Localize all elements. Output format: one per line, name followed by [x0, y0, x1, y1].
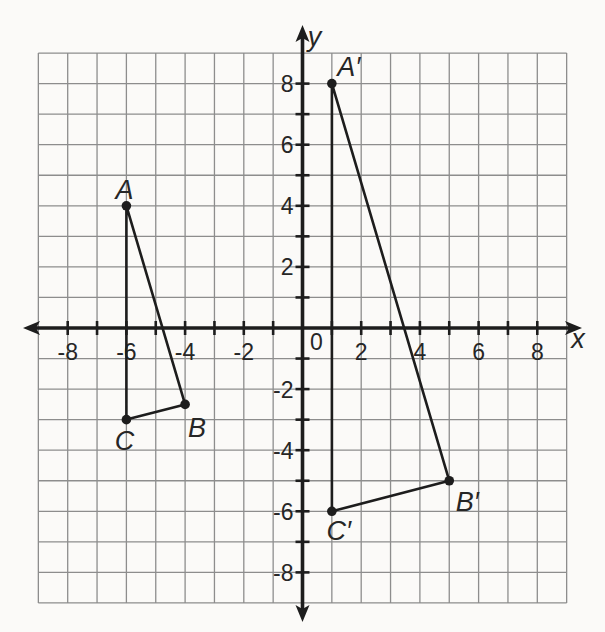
y-tick-label: -6	[273, 499, 293, 525]
y-tick-label: 6	[281, 132, 294, 158]
y-tick-label: 2	[281, 254, 294, 280]
x-tick-label: 2	[355, 339, 368, 365]
point-label-b-prime: B′	[456, 487, 480, 517]
point-label-a-prime: A′	[335, 52, 361, 82]
y-tick-label: 8	[281, 71, 294, 97]
triangle-a-primeb-primec-prime: A′B′C′	[327, 52, 480, 547]
point-b	[180, 400, 190, 410]
triangle-abc: ABC	[113, 175, 206, 456]
y-axis-title: y	[306, 22, 323, 52]
point-c	[122, 415, 132, 425]
x-tick-label: 6	[472, 339, 485, 365]
x-tick-label: -4	[175, 339, 196, 365]
y-tick-label: 4	[281, 193, 294, 219]
x-axis-title: x	[569, 324, 586, 354]
x-tick-label: -2	[234, 339, 254, 365]
point-label-c-prime: C′	[327, 516, 352, 546]
y-tick-label: -2	[273, 377, 293, 403]
x-tick-label: 4	[414, 339, 427, 365]
point-label-a: A	[113, 175, 133, 205]
point-label-c: C	[115, 426, 135, 456]
origin-label: 0	[310, 329, 323, 355]
x-tick-labels: -8-6-4-22468	[57, 339, 543, 365]
y-tick-label: -8	[273, 560, 293, 586]
point-b-prime	[444, 476, 454, 486]
y-tick-label: -4	[273, 438, 294, 464]
point-a-prime	[327, 79, 337, 89]
point-c-prime	[327, 507, 337, 517]
x-tick-label: -8	[57, 339, 77, 365]
graph-paper-figure: -8-6-4-224688642-2-4-6-80xyABCA′B′C′	[0, 0, 605, 632]
point-label-b: B	[188, 413, 206, 443]
x-tick-label: 8	[531, 339, 544, 365]
coordinate-plane: -8-6-4-224688642-2-4-6-80xyABCA′B′C′	[0, 0, 605, 632]
